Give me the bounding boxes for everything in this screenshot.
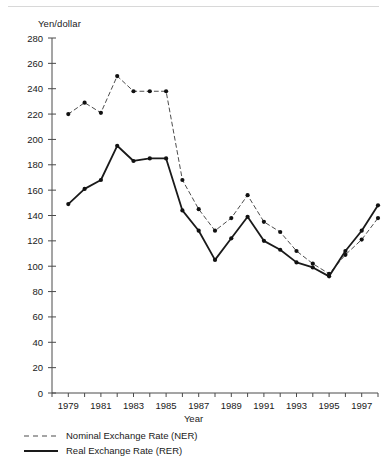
data-point	[262, 220, 266, 224]
data-point	[115, 144, 119, 148]
data-point	[197, 229, 201, 233]
data-point	[164, 89, 168, 93]
y-tick-label: 60	[32, 311, 43, 322]
chart-figure: Yen/dollar 02040608010012014016018020022…	[0, 0, 387, 469]
data-point	[83, 101, 87, 105]
y-tick-label: 220	[27, 109, 43, 120]
legend-label-ner: Nominal Exchange Rate (NER)	[66, 430, 197, 441]
y-tick-label: 100	[27, 261, 43, 272]
data-point	[66, 202, 70, 206]
chart-plot-area: 020406080100120140160180200220240260280 …	[0, 0, 387, 469]
y-tick-label: 160	[27, 185, 43, 196]
y-tick-label: 260	[27, 58, 43, 69]
data-point	[360, 229, 364, 233]
data-point	[229, 236, 233, 240]
chart-legend: Nominal Exchange Rate (NER) Real Exchang…	[24, 428, 197, 458]
data-point	[83, 187, 87, 191]
data-point	[343, 249, 347, 253]
x-tick-label: 1995	[319, 400, 340, 411]
x-tick-label: 1989	[221, 400, 242, 411]
data-point	[278, 248, 282, 252]
data-point	[66, 112, 70, 116]
x-tick-label: 1987	[188, 400, 209, 411]
x-tick-label: 1993	[286, 400, 307, 411]
legend-label-rer: Real Exchange Rate (RER)	[66, 445, 182, 456]
y-tick-label: 280	[27, 33, 43, 44]
y-tick-label: 20	[32, 362, 43, 373]
data-point	[376, 203, 380, 207]
data-point	[131, 89, 135, 93]
x-tick-label: 1981	[90, 400, 111, 411]
data-point	[327, 274, 331, 278]
data-point	[278, 230, 282, 234]
data-point	[213, 258, 217, 262]
data-point	[311, 262, 315, 266]
y-tick-label: 180	[27, 159, 43, 170]
data-point	[99, 111, 103, 115]
y-tick-label: 140	[27, 210, 43, 221]
series-line-ner	[68, 76, 378, 274]
legend-item-rer: Real Exchange Rate (RER)	[24, 443, 197, 458]
data-point	[229, 216, 233, 220]
y-tick-label: 0	[38, 388, 43, 399]
chart-series-layer	[66, 74, 380, 279]
y-tick-labels: 020406080100120140160180200220240260280	[27, 33, 43, 399]
data-point	[360, 237, 364, 241]
data-point	[180, 208, 184, 212]
data-point	[246, 215, 250, 219]
data-point	[262, 239, 266, 243]
x-tick-labels: 1979198119831985198719891991199319951997	[58, 400, 373, 411]
chart-axes	[48, 38, 378, 397]
data-point	[115, 74, 119, 78]
data-point	[294, 260, 298, 264]
x-axis-title: Year	[0, 413, 387, 424]
x-tick-label: 1997	[351, 400, 372, 411]
data-point	[246, 193, 250, 197]
x-tick-label: 1979	[58, 400, 79, 411]
y-tick-label: 120	[27, 235, 43, 246]
data-point	[148, 156, 152, 160]
data-point	[197, 207, 201, 211]
data-point	[180, 178, 184, 182]
y-tick-label: 200	[27, 134, 43, 145]
data-point	[311, 265, 315, 269]
x-tick-label: 1985	[156, 400, 177, 411]
data-point	[294, 249, 298, 253]
data-point	[131, 159, 135, 163]
y-tick-label: 40	[32, 337, 43, 348]
data-point	[148, 89, 152, 93]
data-point	[164, 156, 168, 160]
x-tick-label: 1991	[253, 400, 274, 411]
x-tick-label: 1983	[123, 400, 144, 411]
data-point	[213, 229, 217, 233]
data-point	[376, 216, 380, 220]
legend-item-ner: Nominal Exchange Rate (NER)	[24, 428, 197, 443]
y-tick-label: 240	[27, 83, 43, 94]
data-point	[99, 178, 103, 182]
legend-swatch-dashed	[24, 431, 58, 441]
legend-swatch-solid	[24, 446, 58, 456]
y-tick-label: 80	[32, 286, 43, 297]
series-line-rer	[68, 146, 378, 277]
